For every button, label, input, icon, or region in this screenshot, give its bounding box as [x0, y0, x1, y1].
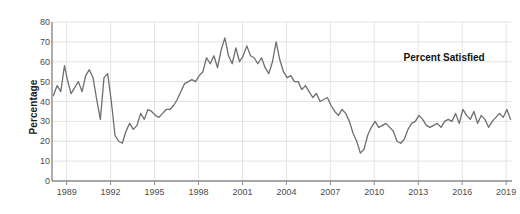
line-chart-svg [0, 0, 520, 214]
series-annotation-label: Percent Satisfied [404, 52, 485, 63]
plot-area [0, 0, 520, 214]
chart-container: Percentage 01020304050607080 19891992199… [0, 0, 520, 214]
horizontal-gridlines [52, 22, 512, 161]
